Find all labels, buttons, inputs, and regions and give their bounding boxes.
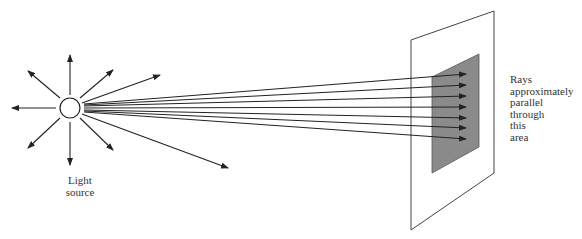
label-line: Rays: [510, 74, 574, 86]
light-rays-diagram: [0, 0, 582, 239]
parallel-rays-label: Rays approximately parallel through this…: [510, 74, 574, 143]
label-line: area: [510, 132, 574, 144]
light-source-label: Light source: [58, 175, 102, 198]
label-line: source: [58, 187, 102, 199]
radial-arrows: [12, 55, 228, 168]
label-line: this: [510, 120, 574, 132]
converging-rays: [84, 74, 466, 139]
label-line: parallel: [510, 97, 574, 109]
light-source-circle: [60, 98, 80, 118]
label-line: Light: [58, 175, 102, 187]
